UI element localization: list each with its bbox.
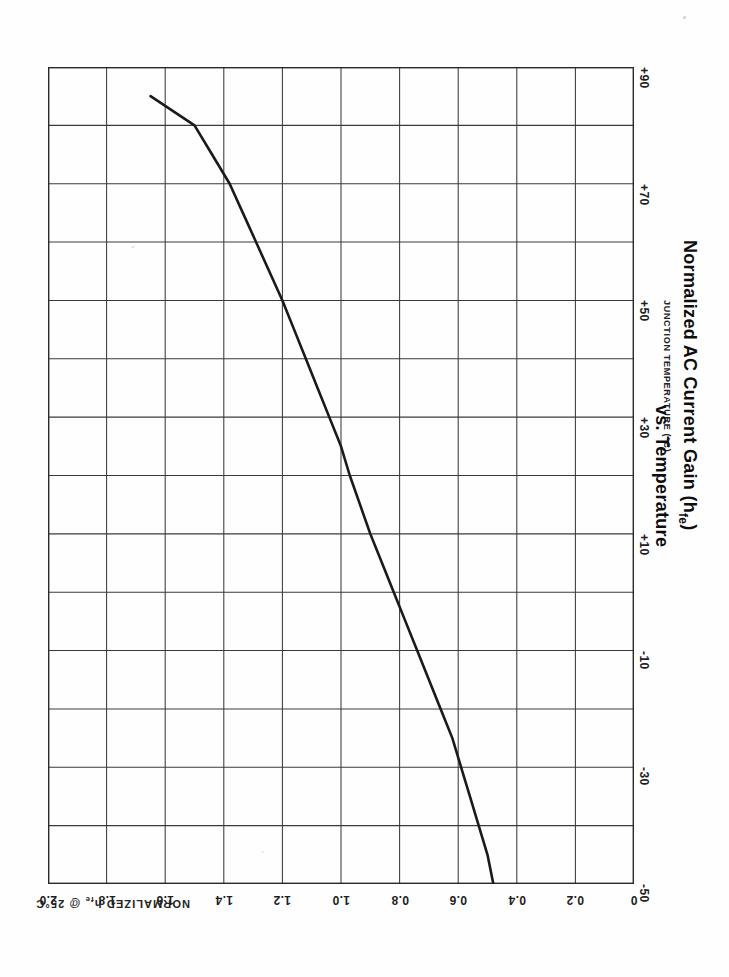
- hfe-tick-label: 0.6: [444, 893, 472, 907]
- hfe-tick-label: 0.2: [561, 893, 589, 907]
- temperature-tick-label: +10: [637, 534, 651, 556]
- scan-speck: [131, 246, 135, 248]
- hfe-tick-label: 0: [620, 893, 648, 907]
- temperature-tick-label: +30: [637, 417, 651, 439]
- temperature-tick-label: -10: [637, 651, 651, 670]
- temperature-tick-label: +50: [637, 300, 651, 322]
- chart-title-subscript: fe: [676, 513, 690, 524]
- scanned-page: +90+70+50+30+10-10-30-50 2.01.81.61.41.2…: [0, 0, 729, 977]
- scan-speck: [683, 16, 686, 19]
- hfe-tick-label: 1.4: [210, 893, 238, 907]
- hfe-tick-label: 1.0: [327, 893, 355, 907]
- hfe-tick-label: 0.8: [386, 893, 414, 907]
- data-curve: [151, 96, 494, 884]
- temperature-tick-label: +70: [637, 184, 651, 206]
- grid-lines: [48, 67, 634, 884]
- chart-title-line1: Normalized AC Current Gain (hfe): [676, 240, 700, 531]
- chart-title-text: Normalized AC Current Gain (h: [680, 240, 700, 513]
- hfe-axis-title: NORMALIZED hfe @ 25°C: [35, 895, 190, 910]
- hfe-axis-title-pre: NORMALIZED h: [94, 898, 190, 910]
- plot-area: [48, 67, 634, 884]
- hfe-axis-title-subscript: fe: [84, 895, 93, 904]
- hfe-axis-title-post: @ 25°C: [35, 898, 84, 910]
- chart-figure: +90+70+50+30+10-10-30-50 2.01.81.61.41.2…: [0, 0, 729, 977]
- temperature-tick-label: -30: [637, 767, 651, 786]
- chart-title-line2: vs. Temperature: [651, 405, 672, 547]
- hfe-tick-label: 1.2: [268, 893, 296, 907]
- plot-svg: [48, 67, 634, 884]
- temperature-tick-label: +90: [637, 67, 651, 89]
- scan-speck: [261, 851, 264, 853]
- hfe-tick-label: 0.4: [503, 893, 531, 907]
- chart-title-paren: ): [680, 524, 700, 530]
